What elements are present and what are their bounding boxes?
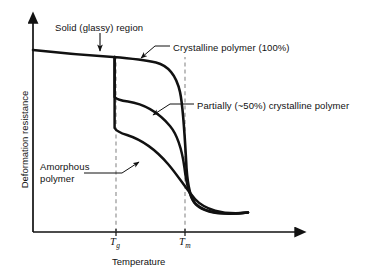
tg-symbol: T — [110, 236, 116, 247]
tg-subscript: g — [116, 241, 120, 250]
annotation-amorphous-polymer: Amorphous polymer — [40, 161, 89, 185]
annotation-crystalline-polymer: Crystalline polymer (100%) — [173, 42, 290, 54]
polymer-deformation-resistance-chart: Solid (glassy) region Crystalline polyme… — [0, 0, 372, 276]
curve-amorphous-polymer — [115, 57, 248, 213]
leader-crystalline — [141, 46, 170, 58]
x-tick-label-tm: Tm — [179, 236, 190, 247]
leader-partially-crystalline — [153, 104, 194, 115]
curve-partially-crystalline-polymer — [115, 57, 248, 213]
leader-amorphous — [84, 162, 139, 173]
x-tick-label-tg: Tg — [110, 236, 120, 247]
x-axis-label: Temperature — [112, 256, 165, 267]
y-axis-label: Deformation resistance — [19, 65, 30, 215]
annotation-amorphous-line2: polymer — [40, 173, 89, 185]
annotation-amorphous-line1: Amorphous — [40, 161, 89, 172]
annotation-solid-glassy-region: Solid (glassy) region — [55, 22, 143, 34]
tm-subscript: m — [185, 241, 190, 250]
tm-symbol: T — [179, 236, 185, 247]
curve-crystalline-polymer — [33, 50, 248, 214]
annotation-partially-crystalline-polymer: Partially (~50%) crystalline polymer — [197, 100, 349, 112]
